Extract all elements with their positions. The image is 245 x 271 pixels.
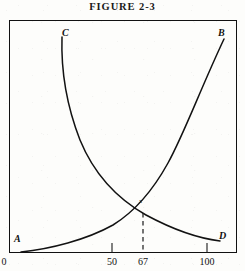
plot-frame [9, 20, 237, 253]
intersection-label: x [139, 196, 142, 206]
curve-label-b: B [218, 28, 225, 38]
curve-label-d: D [219, 231, 226, 241]
x-tick-label-50: 50 [101, 256, 123, 267]
x-tick-label-0: 0 [0, 256, 11, 267]
curve-label-a: A [14, 234, 21, 244]
curve-label-c: C [62, 28, 69, 38]
figure-title: FIGURE 2-3 [0, 0, 245, 13]
figure-page: FIGURE 2-3 C B A D x 0 50 67 100 [0, 0, 245, 271]
x-tick-label-67: 67 [132, 256, 154, 267]
x-tick-label-100: 100 [194, 256, 220, 267]
